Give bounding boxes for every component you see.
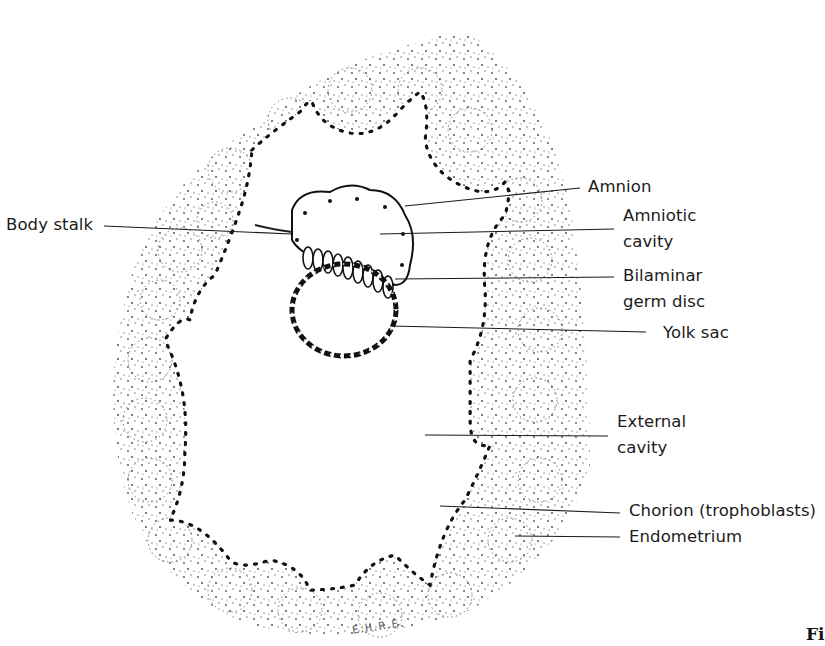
label-bilaminar-line2: germ disc — [623, 291, 705, 313]
label-bilaminar-line1: Bilaminar — [623, 265, 703, 287]
label-amnion: Amnion — [588, 176, 652, 198]
label-external-cavity-line2: cavity — [617, 437, 667, 459]
figure-caption-fragment: Fi — [806, 624, 825, 644]
label-endometrium: Endometrium — [629, 526, 742, 548]
label-amniotic-cavity-line1: Amniotic — [623, 205, 696, 227]
label-body-stalk: Body stalk — [6, 214, 93, 236]
label-external-cavity-line1: External — [617, 411, 686, 433]
label-yolk-sac: Yolk sac — [663, 322, 729, 344]
label-amniotic-cavity-line2: cavity — [623, 231, 673, 253]
label-chorion: Chorion (trophoblasts) — [629, 500, 816, 522]
